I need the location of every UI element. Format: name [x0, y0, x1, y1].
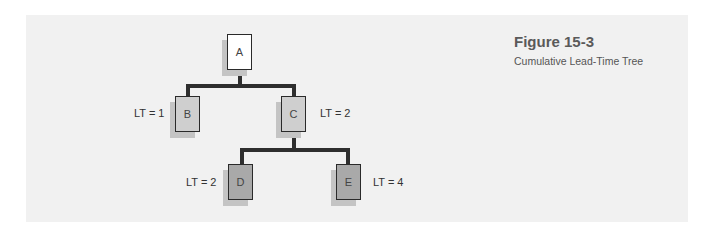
node-b: B [175, 96, 200, 132]
connector-level2-bar [240, 148, 350, 152]
node-e: E [336, 164, 361, 200]
node-c: C [281, 96, 306, 132]
figure-subtitle: Cumulative Lead-Time Tree [514, 55, 643, 67]
lead-time-e: LT = 4 [373, 176, 403, 188]
connector-e-drop [346, 148, 350, 165]
node-a-label: A [236, 46, 243, 58]
node-c-label: C [290, 108, 298, 120]
lead-time-b: LT = 1 [134, 107, 164, 119]
node-e-label: E [345, 176, 352, 188]
node-d: D [228, 164, 253, 200]
lead-time-d: LT = 2 [186, 176, 216, 188]
connector-d-drop [240, 148, 244, 165]
figure-title: Figure 15-3 [514, 33, 594, 50]
node-b-label: B [184, 108, 191, 120]
node-a: A [227, 34, 252, 70]
connector-level1-bar [186, 84, 296, 88]
lead-time-c: LT = 2 [320, 107, 350, 119]
node-d-label: D [237, 176, 245, 188]
